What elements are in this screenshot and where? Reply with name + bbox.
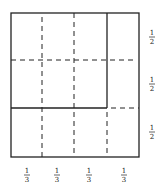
svg-text:1: 1 [150, 29, 154, 37]
svg-text:1: 1 [150, 124, 154, 132]
svg-text:1: 1 [150, 76, 154, 84]
bottom-label-2: 1 3 [54, 167, 60, 184]
svg-text:3: 3 [122, 176, 126, 184]
outer-rectangle [11, 13, 139, 157]
svg-text:1: 1 [87, 167, 91, 175]
svg-text:3: 3 [87, 176, 91, 184]
right-label-1: 1 2 [149, 29, 155, 46]
svg-text:2: 2 [150, 38, 154, 46]
svg-text:1: 1 [25, 167, 29, 175]
right-label-2: 1 2 [149, 76, 155, 93]
right-label-3: 1 2 [149, 124, 155, 141]
svg-text:2: 2 [150, 85, 154, 93]
svg-text:2: 2 [150, 133, 154, 141]
bottom-label-3: 1 3 [86, 167, 92, 184]
svg-text:1: 1 [55, 167, 59, 175]
svg-text:3: 3 [55, 176, 59, 184]
fraction-grid-diagram: 1 2 1 2 1 2 1 3 1 3 1 3 1 3 [0, 0, 166, 191]
bottom-label-4: 1 3 [121, 167, 127, 184]
svg-text:1: 1 [122, 167, 126, 175]
bottom-label-1: 1 3 [24, 167, 30, 184]
svg-text:3: 3 [25, 176, 29, 184]
